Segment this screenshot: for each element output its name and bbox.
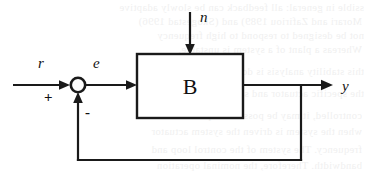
reference-signal-label: r	[38, 55, 44, 71]
disturbance-signal-label: n	[200, 9, 208, 25]
error-signal-label: e	[93, 55, 100, 71]
output-wire	[243, 80, 333, 90]
reference-arrowhead-icon	[59, 80, 70, 90]
reference-input-wire	[13, 80, 70, 90]
summing-minus-sign-label: -	[85, 104, 90, 120]
error-signal-wire	[86, 80, 138, 90]
disturbance-input-wire	[185, 12, 195, 55]
error-arrowhead-icon	[126, 80, 137, 90]
output-arrowhead-icon	[321, 80, 333, 90]
summing-plus-sign-label: +	[44, 89, 53, 105]
block-diagram-figure: ssible in general: all feedback can be s…	[0, 0, 370, 176]
output-signal-label: y	[340, 78, 349, 94]
plant-block-label: B	[183, 74, 198, 99]
feedback-arrowhead-icon	[73, 92, 83, 103]
summing-junction-circle	[71, 78, 85, 92]
